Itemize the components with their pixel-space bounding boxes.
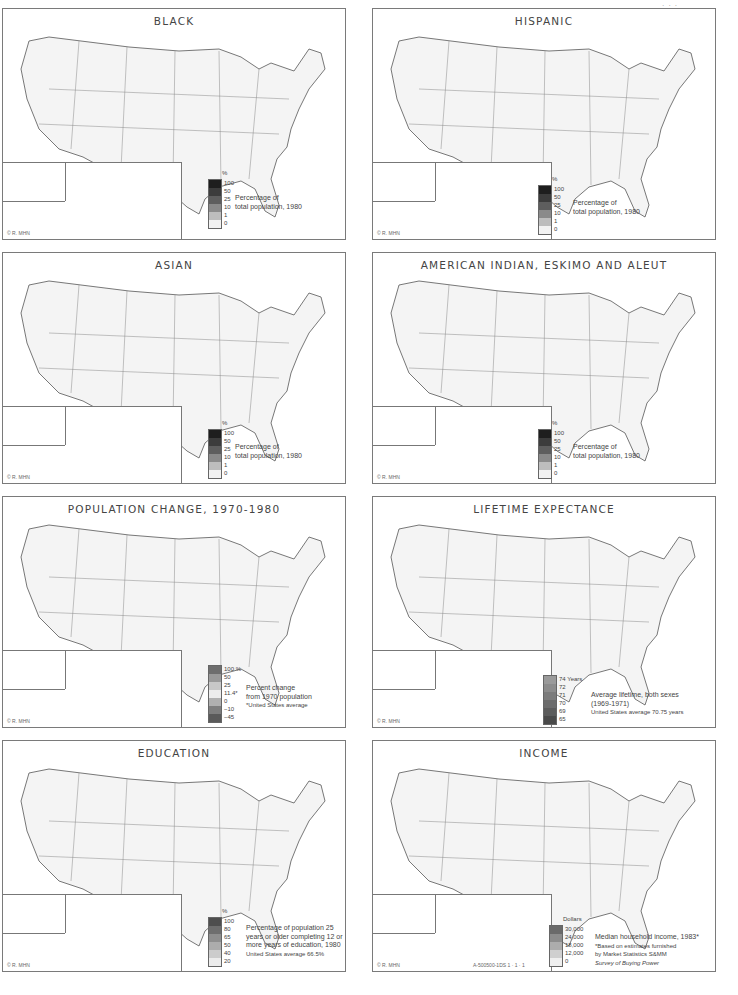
legend-swatch	[209, 438, 221, 446]
legend-tick: 65	[559, 715, 582, 723]
legend-tick: 100	[554, 185, 564, 193]
legend-swatch	[209, 446, 221, 454]
legend-tick: 80	[224, 925, 234, 933]
alaska-hawaii-inset: © R. MHN	[3, 894, 182, 971]
legend-swatch	[209, 918, 221, 926]
legend-ticks: 10050251010	[554, 185, 564, 235]
legend-swatches	[543, 675, 557, 725]
legend-tick: 11.4*	[224, 689, 241, 697]
legend-swatch	[539, 210, 551, 218]
legend-tick: 100	[224, 917, 234, 925]
legend-swatch	[209, 698, 221, 706]
legend-tick: 12,000	[565, 949, 583, 957]
legend-tick: 1	[554, 217, 564, 225]
legend-swatches	[538, 185, 552, 235]
legend-swatch	[539, 446, 551, 454]
legend-swatch	[209, 706, 221, 714]
legend-caption-line: Percentage of	[235, 194, 302, 203]
credit: © R. MHN	[7, 230, 30, 236]
legend-tick: 10	[224, 203, 234, 211]
legend-swatch	[539, 186, 551, 194]
legend-tick: 50	[224, 673, 241, 681]
legend-ticks: 10050251010	[224, 429, 234, 479]
legend-swatch	[209, 454, 221, 462]
legend: %1008065504020	[208, 917, 234, 967]
legend-swatches	[208, 179, 222, 229]
legend-tick: 10	[554, 453, 564, 461]
legend-tick: 0	[224, 697, 241, 705]
legend-swatch	[209, 470, 221, 478]
legend-swatch	[544, 692, 556, 700]
legend-tick: 74 Years	[559, 675, 582, 683]
legend-caption-line: by Market Statistics S&MM	[595, 950, 699, 959]
legend-caption: Percentage oftotal population, 1980	[573, 199, 640, 216]
legend: Dollars30,00024,00018,00012,0000	[549, 925, 583, 967]
legend-swatch	[539, 226, 551, 234]
legend-tick: 50	[554, 437, 564, 445]
legend-tick: −10	[224, 705, 241, 713]
legend-swatch	[209, 462, 221, 470]
legend-ticks: 1008065504020	[224, 917, 234, 967]
legend-caption-line: *United States average	[246, 701, 312, 710]
legend-tick: 0	[554, 469, 564, 477]
legend-tick: 18,000	[565, 941, 583, 949]
legend-swatch	[544, 676, 556, 684]
legend-swatches	[208, 665, 222, 723]
legend-unit: %	[222, 908, 227, 914]
legend-swatch	[539, 470, 551, 478]
legend-swatch	[209, 926, 221, 934]
legend-unit: %	[552, 420, 557, 426]
legend-caption-line: Percentage of	[573, 199, 640, 208]
legend-caption: Percentage of population 25years or olde…	[246, 924, 343, 958]
alaska-hawaii-inset: © R. MHN	[373, 162, 552, 239]
legend-swatch	[209, 942, 221, 950]
legend-caption-line: *Based on estimates furnished	[595, 942, 699, 951]
legend-caption-line: Percentage of	[235, 443, 302, 452]
legend-caption: Percent changefrom 1970 population*Unite…	[246, 684, 312, 710]
legend-swatch	[544, 716, 556, 724]
legend-tick: 70	[559, 699, 582, 707]
legend-caption-line: (1969-1971)	[591, 700, 683, 709]
legend-swatch	[209, 958, 221, 966]
map-panel-black: BLACK © R. MHN %10050251010 Percentage o…	[2, 8, 346, 240]
legend-swatch	[209, 430, 221, 438]
legend-tick: 0	[554, 225, 564, 233]
legend-tick: 65	[224, 933, 234, 941]
legend-swatches	[538, 429, 552, 479]
legend-caption-line: Median household income, 1983*	[595, 933, 699, 942]
legend-tick: −45	[224, 713, 241, 721]
legend-tick: 71	[559, 691, 582, 699]
legend-swatch	[550, 950, 562, 958]
legend-tick: 50	[554, 193, 564, 201]
legend-ticks: 10050251010	[554, 429, 564, 479]
alaska-hawaii-inset: © R. MHN	[373, 406, 552, 483]
legend-caption-line: United States average 70.75 years	[591, 708, 683, 717]
credit: © R. MHN	[377, 230, 400, 236]
panel-title: AMERICAN INDIAN, ESKIMO AND ALEUT	[373, 259, 715, 271]
panel-title: LIFETIME EXPECTANCE	[373, 503, 715, 515]
legend-tick: 30,000	[565, 925, 583, 933]
credit: © R. MHN	[377, 962, 400, 968]
legend-tick: 25	[554, 201, 564, 209]
credit: © R. MHN	[7, 718, 30, 724]
legend-caption-line: Survey of Buying Power	[595, 959, 699, 968]
legend-tick: 100 %	[224, 665, 241, 673]
legend-caption-line: Percentage of	[573, 443, 640, 452]
legend-tick: 50	[224, 437, 234, 445]
legend-tick: 0	[565, 957, 583, 965]
legend-swatch	[209, 220, 221, 228]
legend-caption-line: Percentage of population 25	[246, 924, 343, 933]
legend-tick: 1	[554, 461, 564, 469]
map-panel-hispanic: HISPANIC © R. MHN %10050251010 Percentag…	[372, 8, 716, 240]
legend-swatch	[209, 714, 221, 722]
legend-ticks: 30,00024,00018,00012,0000	[565, 925, 583, 967]
alaska-hawaii-inset: © R. MHN	[373, 650, 552, 727]
legend-tick: 25	[224, 195, 234, 203]
legend-unit: %	[552, 176, 557, 182]
legend: %10050251010	[208, 429, 234, 479]
legend-ticks: 10050251010	[224, 179, 234, 229]
map-panel-american-indian: AMERICAN INDIAN, ESKIMO AND ALEUT © R. M…	[372, 252, 716, 484]
legend-swatch	[209, 674, 221, 682]
legend-caption-line: total population, 1980	[235, 203, 302, 212]
legend-tick: 25	[224, 681, 241, 689]
